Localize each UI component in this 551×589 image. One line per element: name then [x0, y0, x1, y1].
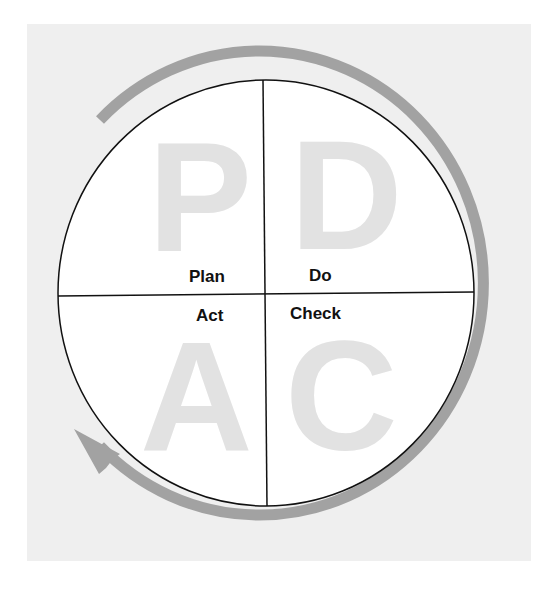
label-plan: Plan: [189, 267, 225, 286]
label-do: Do: [309, 266, 332, 285]
pdca-diagram: P D A C Plan Do Act Check: [0, 0, 551, 589]
letter-c: C: [285, 308, 398, 482]
letter-p: P: [148, 110, 252, 284]
letter-d: D: [290, 108, 403, 282]
label-check: Check: [290, 304, 342, 323]
letter-a: A: [140, 309, 253, 483]
label-act: Act: [196, 306, 224, 325]
